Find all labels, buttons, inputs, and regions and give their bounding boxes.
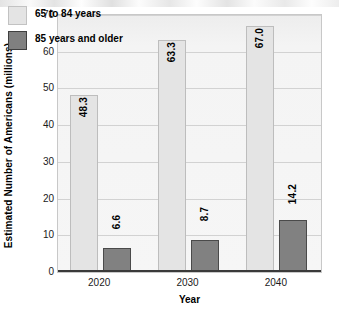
gridline-50 <box>58 88 321 89</box>
legend-swatch-icon-light <box>8 6 27 25</box>
x-tick-label-2020: 2020 <box>69 277 129 288</box>
x-axis-baseline <box>58 270 321 272</box>
bar-2040-series-2 <box>279 220 307 272</box>
legend-item-85-and-older: 85 years and older <box>8 31 168 50</box>
bar-value-label-2040-series-2: 14.2 <box>287 177 299 211</box>
legend-item-65-to-84: 65 to 84 years <box>8 6 168 25</box>
x-tick-label-2030: 2030 <box>158 277 218 288</box>
y-tick-label-40: 40 <box>30 119 54 130</box>
bar-value-label-2030-series-2: 8.7 <box>199 197 211 231</box>
bar-value-label-2020-series-1: 48.3 <box>78 90 90 124</box>
y-tick-label-10: 10 <box>30 229 54 240</box>
y-tick-label-20: 20 <box>30 192 54 203</box>
bar-2030-series-2 <box>191 240 219 272</box>
bar-value-label-2040-series-1: 67.0 <box>254 21 266 55</box>
chart-legend: 65 to 84 years 85 years and older <box>8 6 168 56</box>
legend-label-65-to-84: 65 to 84 years <box>35 6 101 19</box>
y-axis-title-text: Estimated Number of Americans (millions) <box>4 42 15 247</box>
bar-value-label-2020-series-2: 6.6 <box>111 205 123 239</box>
y-tick-label-50: 50 <box>30 82 54 93</box>
bar-2030-series-1 <box>158 40 186 272</box>
legend-label-85-and-older: 85 years and older <box>35 31 123 44</box>
bar-2040-series-1 <box>246 26 274 272</box>
x-axis-title: Year <box>57 294 322 305</box>
bar-2020-series-2 <box>103 248 131 272</box>
y-tick-label-30: 30 <box>30 155 54 166</box>
y-tick-label-0: 0 <box>30 266 54 277</box>
legend-swatch-icon-dark <box>8 31 27 50</box>
x-tick-label-2040: 2040 <box>246 277 306 288</box>
